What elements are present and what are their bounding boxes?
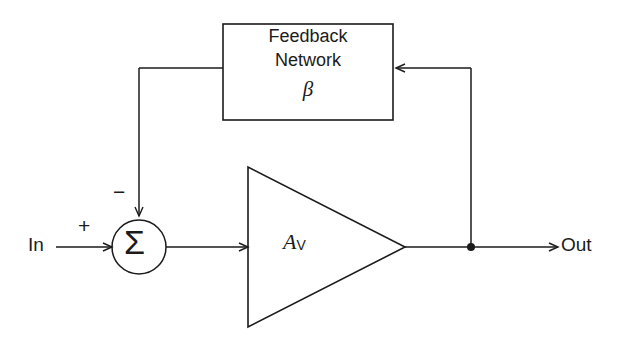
- feedback-block-line2: Network: [223, 50, 393, 71]
- amplifier-triangle: [248, 167, 405, 327]
- input-label: In: [28, 234, 44, 256]
- beta-symbol: β: [223, 77, 393, 102]
- block-diagram-canvas: In + − Σ Feedback Network β AV Out: [0, 0, 619, 343]
- amplifier-gain-symbol: A: [283, 229, 296, 254]
- output-label: Out: [561, 234, 592, 256]
- summing-negative-sign: −: [113, 180, 125, 204]
- summation-symbol: Σ: [124, 225, 145, 259]
- feedback-block-line1: Feedback: [223, 26, 393, 47]
- amplifier-gain-label: AV: [283, 229, 306, 255]
- amplifier-gain-subscript: V: [296, 237, 305, 253]
- summing-positive-sign: +: [78, 214, 90, 238]
